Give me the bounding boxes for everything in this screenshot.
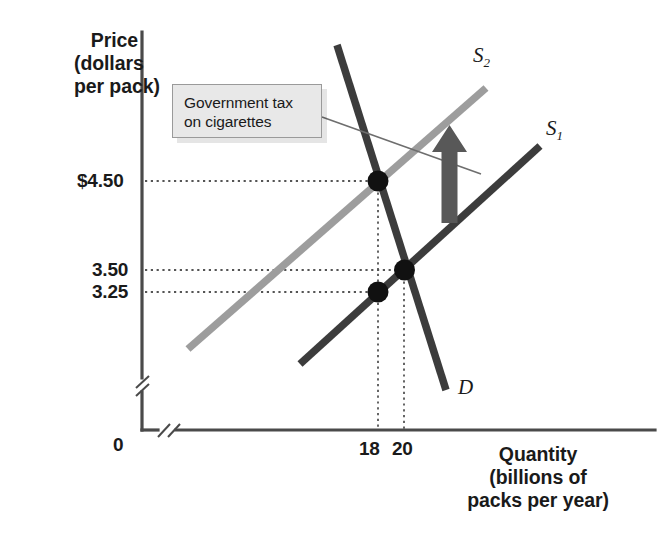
callout-text: Government tax on cigarettes — [184, 93, 293, 131]
curve-label-s1-text: S — [546, 116, 557, 140]
point-pretax-equilibrium — [394, 260, 415, 281]
supply-demand-figure: Price (dollars per pack) Quantity (billi… — [0, 0, 669, 536]
callout-box: Government tax on cigarettes — [172, 84, 322, 138]
curve-d — [337, 45, 446, 390]
x-axis-break-mark — [158, 424, 170, 437]
curve-label-s1-subscript: 1 — [557, 128, 564, 143]
shift-arrow-icon — [432, 125, 467, 223]
y-axis-title: Price (dollars per pack) — [74, 29, 138, 98]
curve-label-s2-subscript: 2 — [484, 55, 491, 70]
x-tick-label-18: 18 — [359, 438, 380, 460]
y-tick-label-350: 3.50 — [92, 259, 128, 281]
curve-label-s2: S2 — [473, 43, 490, 71]
x-axis-title: Quantity (billions of packs per year) — [438, 443, 638, 512]
point-producer-price — [368, 282, 389, 303]
x-tick-label-20: 20 — [392, 438, 413, 460]
curve-label-s2-text: S — [473, 43, 484, 67]
point-after-tax-equilibrium — [368, 171, 389, 192]
curve-label-s1: S1 — [546, 116, 563, 144]
curve-label-d: D — [458, 375, 473, 400]
y-tick-label-325: 3.25 — [92, 281, 128, 303]
curve-s1 — [300, 146, 540, 364]
y-tick-label-450: $4.50 — [77, 170, 124, 192]
origin-label: 0 — [113, 434, 124, 456]
